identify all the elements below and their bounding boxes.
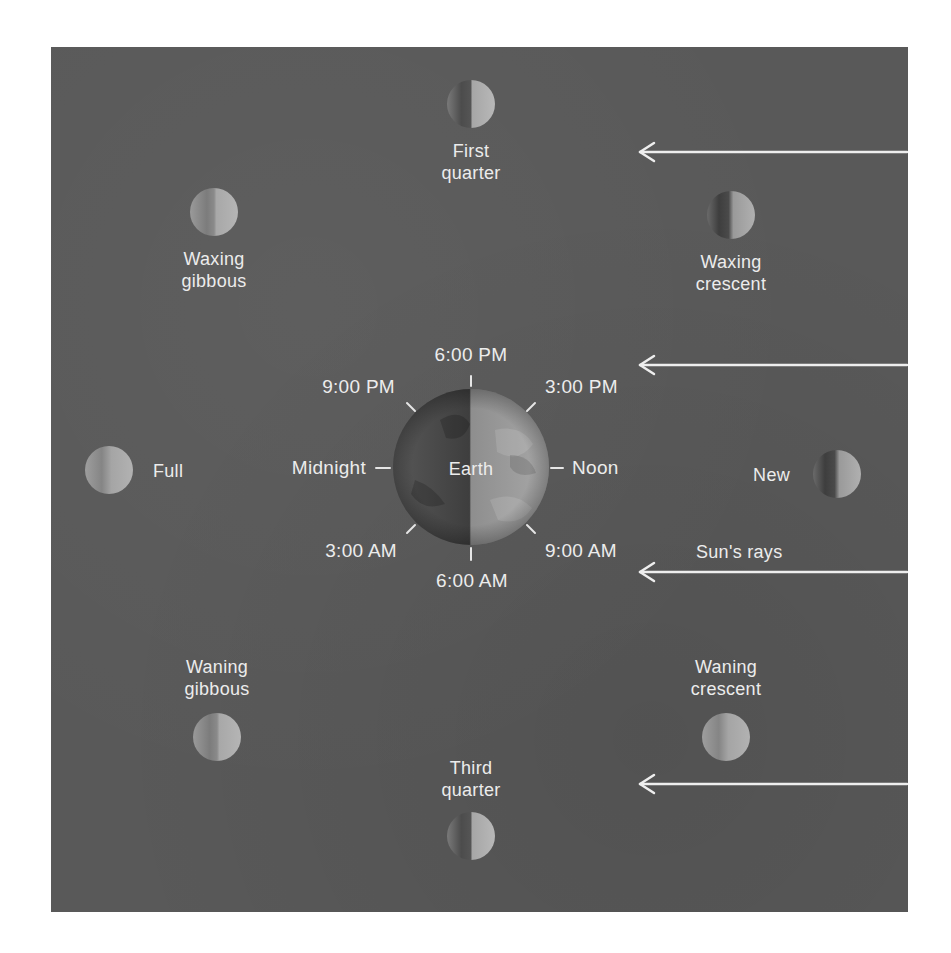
moon-third-quarter-icon — [447, 812, 495, 860]
time-label-6pm: 6:00 PM — [416, 344, 526, 366]
label-third-quarter-line2: quarter — [421, 779, 521, 801]
moon-full-icon — [85, 446, 133, 494]
label-waning-crescent-line1: Waning — [671, 656, 781, 678]
time-label-midnight: Midnight — [270, 457, 366, 479]
label-waxing-gibbous-line1: Waxing — [164, 248, 264, 270]
sun-ray-arrow-3 — [640, 563, 907, 581]
label-new: New — [740, 464, 790, 486]
moon-waning-gibbous-icon — [193, 713, 241, 761]
label-sun-rays: Sun's rays — [696, 541, 782, 563]
label-first-quarter-line1: First — [421, 140, 521, 162]
label-first-quarter: First quarter — [421, 140, 521, 184]
sun-ray-arrow-4 — [640, 775, 907, 793]
time-label-9am: 9:00 AM — [545, 540, 617, 562]
moon-waxing-crescent-icon — [707, 191, 755, 239]
label-waning-gibbous-line2: gibbous — [167, 678, 267, 700]
moon-waxing-gibbous-icon — [190, 188, 238, 236]
moon-waning-crescent-icon — [702, 713, 750, 761]
time-label-6am: 6:00 AM — [412, 570, 532, 592]
label-third-quarter: Third quarter — [421, 757, 521, 801]
label-full-text: Full — [153, 461, 183, 481]
label-waxing-crescent: Waxing crescent — [676, 251, 786, 295]
label-waning-gibbous: Waning gibbous — [167, 656, 267, 700]
label-new-text: New — [753, 465, 790, 485]
label-full: Full — [153, 460, 183, 482]
label-waxing-gibbous-line2: gibbous — [164, 270, 264, 292]
time-label-9pm: 9:00 PM — [280, 376, 395, 398]
label-waning-crescent: Waning crescent — [671, 656, 781, 700]
time-label-3am: 3:00 AM — [280, 540, 397, 562]
time-label-3pm: 3:00 PM — [545, 376, 618, 398]
label-waxing-crescent-line2: crescent — [676, 273, 786, 295]
label-waning-crescent-line2: crescent — [671, 678, 781, 700]
label-earth: Earth — [436, 458, 506, 480]
label-waxing-gibbous: Waxing gibbous — [164, 248, 264, 292]
moon-first-quarter-icon — [447, 80, 495, 128]
label-third-quarter-line1: Third — [421, 757, 521, 779]
sun-ray-arrow-1 — [640, 143, 907, 161]
sun-ray-arrow-2 — [640, 356, 907, 374]
label-waxing-crescent-line1: Waxing — [676, 251, 786, 273]
label-waning-gibbous-line1: Waning — [167, 656, 267, 678]
time-label-noon: Noon — [572, 457, 619, 479]
moon-new-icon — [813, 450, 861, 498]
label-first-quarter-line2: quarter — [421, 162, 521, 184]
